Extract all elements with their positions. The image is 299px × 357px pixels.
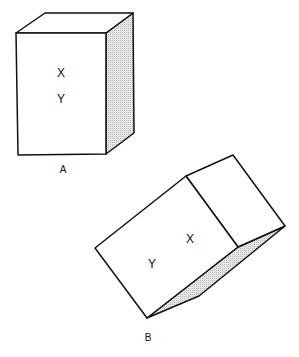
box-b-face-label-y: Y [148,257,156,271]
box-a-face-label-x: X [57,66,65,80]
box-a-face-label-y: Y [57,92,65,106]
box-a-caption: A [60,164,67,175]
box-a-side-face [106,13,134,154]
box-a [16,13,134,155]
box-b-caption: B [145,332,152,343]
diagram-canvas [0,0,299,357]
box-b-face-label-x: X [186,232,194,246]
